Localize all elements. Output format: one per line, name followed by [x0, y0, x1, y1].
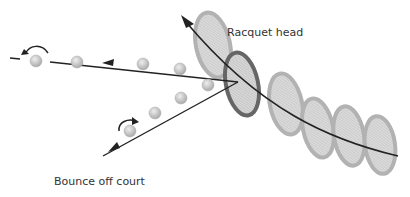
racquet-head-label: Racquet head [227, 26, 303, 39]
racquet-impact [220, 49, 265, 118]
swing-arrow-head [181, 15, 194, 28]
outgoing-arrow-head [102, 59, 114, 66]
spin-arrow-outgoing [25, 46, 48, 54]
outgoing-path-tail [10, 58, 20, 59]
spin-arrowhead-incoming [132, 117, 139, 125]
bounce-label: Bounce off court [54, 175, 145, 188]
tennis-stroke-diagram [0, 0, 410, 197]
incoming-path [103, 82, 238, 156]
balls [30, 55, 214, 137]
